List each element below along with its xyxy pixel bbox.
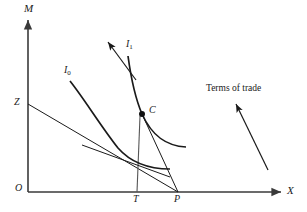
- point-marker-c: [139, 111, 145, 117]
- curve-label-i0-sub: 0: [67, 69, 71, 77]
- tangent-line-i0: [82, 145, 170, 177]
- curve-label-i1-sub: 1: [129, 43, 133, 51]
- economics-diagram: M X O Z C T P I0 I1 Terms of trade: [0, 0, 307, 212]
- curve-label-i0: I0: [64, 65, 71, 75]
- indifference-curve-i0: [70, 81, 170, 169]
- m-axis-label: M: [24, 3, 33, 14]
- point-label-t: T: [133, 194, 139, 204]
- point-label-c: C: [149, 105, 156, 115]
- x-axis-label: X: [287, 185, 294, 196]
- curve-label-i1: I1: [126, 39, 133, 49]
- origin-label: O: [15, 183, 22, 193]
- drop-line-ct: [137, 116, 140, 192]
- terms-of-trade-label: Terms of trade: [206, 84, 261, 94]
- terms-of-trade-arrow: [236, 104, 268, 170]
- indifference-curve-i1: [128, 56, 186, 147]
- point-label-z: Z: [14, 97, 20, 107]
- trade-line-cp: [142, 114, 178, 192]
- budget-line-zp: [28, 104, 178, 192]
- point-label-p: P: [174, 194, 180, 204]
